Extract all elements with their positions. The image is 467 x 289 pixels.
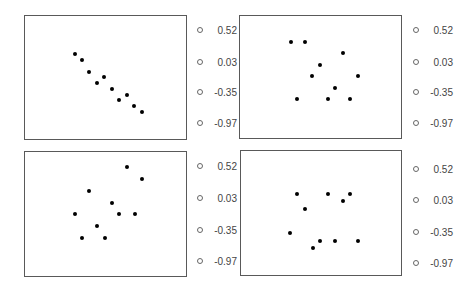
circle-marker-icon bbox=[197, 89, 203, 95]
plot-area-bottom-left bbox=[24, 151, 187, 277]
legend-item: 0.03 bbox=[413, 57, 453, 69]
legend-item: -0.35 bbox=[197, 87, 237, 99]
data-point bbox=[310, 74, 314, 78]
circle-marker-icon bbox=[197, 227, 203, 233]
legend-label: 0.03 bbox=[427, 57, 453, 69]
data-point bbox=[333, 239, 337, 243]
legend-label: -0.97 bbox=[211, 256, 237, 268]
circle-marker-icon bbox=[197, 163, 203, 169]
data-point bbox=[140, 177, 144, 181]
legend-item: 0.52 bbox=[197, 25, 237, 37]
legend-item: -0.35 bbox=[413, 227, 453, 239]
circle-marker-icon bbox=[413, 197, 419, 203]
data-point bbox=[356, 239, 360, 243]
data-point bbox=[73, 212, 77, 216]
data-point bbox=[348, 97, 352, 101]
data-point bbox=[87, 189, 91, 193]
circle-marker-icon bbox=[413, 27, 419, 33]
legend-item: 0.52 bbox=[197, 161, 237, 173]
legend-item: 0.03 bbox=[197, 193, 237, 205]
legend-item: 0.52 bbox=[413, 164, 453, 176]
data-point bbox=[80, 58, 84, 62]
circle-marker-icon bbox=[413, 260, 419, 266]
data-point bbox=[110, 201, 114, 205]
data-point bbox=[356, 74, 360, 78]
legend-label: -0.35 bbox=[211, 225, 237, 237]
legend-label: -0.35 bbox=[427, 227, 453, 239]
data-point bbox=[133, 212, 137, 216]
data-point bbox=[341, 51, 345, 55]
legend-label: 0.52 bbox=[427, 164, 453, 176]
data-point bbox=[95, 81, 99, 85]
data-point bbox=[348, 192, 352, 196]
data-point bbox=[80, 236, 84, 240]
data-point bbox=[103, 236, 107, 240]
data-point bbox=[110, 87, 114, 91]
data-point bbox=[87, 70, 91, 74]
legend-item: -0.97 bbox=[413, 258, 453, 270]
legend-item: 0.03 bbox=[197, 57, 237, 69]
legend-item: -0.35 bbox=[197, 225, 237, 237]
circle-marker-icon bbox=[413, 120, 419, 126]
data-point bbox=[140, 110, 144, 114]
circle-marker-icon bbox=[197, 59, 203, 65]
legend-label: 0.52 bbox=[211, 161, 237, 173]
circle-marker-icon bbox=[413, 166, 419, 172]
legend-label: -0.35 bbox=[427, 87, 453, 99]
data-point bbox=[333, 86, 337, 90]
legend-item: 0.03 bbox=[413, 195, 453, 207]
data-point bbox=[311, 246, 315, 250]
legend-label: 0.52 bbox=[211, 25, 237, 37]
legend-item: -0.97 bbox=[197, 118, 237, 130]
data-point bbox=[125, 93, 129, 97]
legend-label: -0.97 bbox=[427, 118, 453, 130]
legend-label: -0.35 bbox=[211, 87, 237, 99]
data-point bbox=[295, 97, 299, 101]
circle-marker-icon bbox=[413, 229, 419, 235]
legend-label: 0.03 bbox=[427, 195, 453, 207]
data-point bbox=[95, 224, 99, 228]
plot-area-top-right bbox=[239, 15, 402, 139]
legend-item: -0.97 bbox=[413, 118, 453, 130]
data-point bbox=[125, 165, 129, 169]
data-point bbox=[303, 207, 307, 211]
data-point bbox=[295, 192, 299, 196]
legend-label: -0.97 bbox=[211, 118, 237, 130]
circle-marker-icon bbox=[197, 27, 203, 33]
data-point bbox=[341, 199, 345, 203]
circle-marker-icon bbox=[197, 120, 203, 126]
data-point bbox=[73, 52, 77, 56]
data-point bbox=[326, 192, 330, 196]
legend-item: -0.35 bbox=[413, 87, 453, 99]
data-point bbox=[132, 104, 136, 108]
data-point bbox=[117, 212, 121, 216]
data-point bbox=[303, 40, 307, 44]
data-point bbox=[117, 98, 121, 102]
data-point bbox=[102, 75, 106, 79]
data-point bbox=[318, 63, 322, 67]
data-point bbox=[289, 40, 293, 44]
circle-marker-icon bbox=[197, 195, 203, 201]
data-point bbox=[288, 231, 292, 235]
circle-marker-icon bbox=[413, 89, 419, 95]
circle-marker-icon bbox=[197, 258, 203, 264]
circle-marker-icon bbox=[413, 59, 419, 65]
legend-item: -0.97 bbox=[197, 256, 237, 268]
legend-label: -0.97 bbox=[427, 258, 453, 270]
legend-item: 0.52 bbox=[413, 25, 453, 37]
data-point bbox=[318, 239, 322, 243]
data-point bbox=[326, 97, 330, 101]
legend-label: 0.03 bbox=[211, 57, 237, 69]
plot-area-bottom-right bbox=[240, 150, 402, 276]
legend-label: 0.52 bbox=[427, 25, 453, 37]
legend-label: 0.03 bbox=[211, 193, 237, 205]
